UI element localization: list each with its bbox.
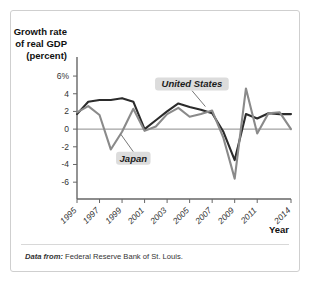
x-tick-label: 2003 — [147, 205, 168, 226]
data-series-group — [77, 88, 291, 178]
y-tick-label: 0 — [64, 124, 69, 134]
y-tick-label: 4 — [64, 89, 69, 99]
y-axis-title-line-1: Growth rate — [14, 26, 67, 37]
source-note: Data from: Federal Reserve Bank of St. L… — [25, 252, 289, 261]
x-axis-ticks: 1995199719992001200320052007200920112014 — [58, 199, 293, 227]
y-tick-label: -4 — [61, 159, 69, 169]
chart-canvas: 6%420-2-4-6 1995199719992001200320052007… — [11, 11, 301, 273]
series-annotations: United StatesJapan — [116, 78, 229, 165]
y-tick-label: -2 — [61, 142, 69, 152]
annotation-leader-line — [192, 91, 206, 107]
x-tick-label: 2001 — [125, 205, 146, 226]
figure-frame: 6%420-2-4-6 1995199719992001200320052007… — [10, 10, 300, 272]
series-line-japan — [77, 88, 291, 178]
source-text: Federal Reserve Bank of St. Louis. — [65, 252, 183, 261]
x-tick-label: 1997 — [80, 205, 101, 226]
x-tick-label: 1995 — [58, 205, 79, 226]
y-tick-label: -6 — [61, 177, 69, 187]
x-axis-title: Year — [269, 224, 289, 235]
x-tick-label: 2009 — [215, 205, 236, 226]
source-lead: Data from: — [25, 252, 63, 261]
footer-divider — [21, 244, 289, 245]
x-tick-label: 2007 — [192, 205, 213, 226]
y-axis-title-line-3: (percent) — [26, 50, 67, 61]
x-tick-label: 1999 — [103, 205, 124, 226]
x-tick-label: 2005 — [170, 205, 191, 226]
y-tick-label: 6% — [57, 71, 70, 81]
y-tick-label: 2 — [64, 106, 69, 116]
annotation-label: Japan — [120, 153, 148, 164]
gdp-growth-line-chart: 6%420-2-4-6 1995199719992001200320052007… — [11, 11, 301, 273]
annotation-label: United States — [162, 78, 223, 89]
x-tick-label: 2011 — [238, 205, 259, 226]
annotation-leader-line — [121, 134, 133, 151]
y-axis-title-line-2: of real GDP — [15, 38, 67, 49]
y-axis-ticks: 6%420-2-4-6 — [57, 71, 77, 187]
